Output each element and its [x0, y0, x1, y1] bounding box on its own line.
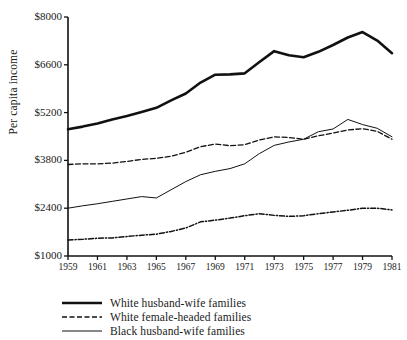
- legend-label: White husband-wife families: [110, 297, 246, 310]
- plot-area: [0, 0, 407, 340]
- series-line-0: [68, 32, 392, 129]
- legend-label: White female-headed families: [110, 311, 251, 324]
- legend-line-swatch: [60, 297, 104, 309]
- legend-item: White female-headed families: [60, 310, 390, 324]
- legend-line-swatch: [60, 311, 104, 323]
- series-line-3: [68, 208, 392, 240]
- chart-figure: Per capita income $1000$2400$3800$5200$6…: [0, 0, 407, 340]
- legend-item: White husband-wife families: [60, 296, 390, 310]
- legend-line-swatch: [60, 325, 104, 337]
- series-line-2: [68, 119, 392, 208]
- legend-item: Black husband-wife families: [60, 324, 390, 338]
- legend-label: Black husband-wife families: [110, 325, 245, 338]
- series-line-1: [68, 129, 392, 165]
- chart-legend: White husband-wife familiesWhite female-…: [60, 296, 390, 338]
